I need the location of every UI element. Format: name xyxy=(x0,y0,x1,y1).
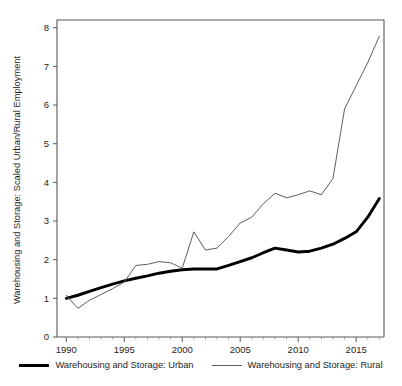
chart-figure: Warehousing and Storage: Scaled Urban/Ru… xyxy=(0,0,402,386)
y-axis-label-text: Warehousing and Storage: Scaled Urban/Ru… xyxy=(12,55,22,304)
plot-border xyxy=(57,20,384,337)
x-tick-label: 1995 xyxy=(114,344,135,355)
x-tick-label: 2000 xyxy=(172,344,193,355)
series-line-urban xyxy=(66,199,379,299)
legend-swatch-rural-icon xyxy=(212,365,242,366)
y-tick-label: 7 xyxy=(44,61,49,72)
x-tick-label: 2015 xyxy=(346,344,367,355)
y-tick-label: 1 xyxy=(44,293,49,304)
plot-frame xyxy=(57,20,384,337)
x-tick-label: 2010 xyxy=(288,344,309,355)
y-tick-label: 5 xyxy=(44,138,49,149)
y-axis-ticks: 012345678 xyxy=(44,22,57,342)
y-tick-label: 6 xyxy=(44,99,49,110)
x-tick-label: 1990 xyxy=(56,344,77,355)
y-tick-label: 8 xyxy=(44,22,49,33)
data-series-layer xyxy=(66,36,379,308)
legend-item-urban[interactable]: Warehousing and Storage: Urban xyxy=(19,360,193,370)
y-tick-label: 2 xyxy=(44,254,49,265)
legend-label-rural: Warehousing and Storage: Rural xyxy=(248,360,383,370)
y-axis-title: Warehousing and Storage: Scaled Urban/Ru… xyxy=(12,55,22,304)
line-chart-canvas: Warehousing and Storage: Scaled Urban/Ru… xyxy=(0,0,402,386)
legend-label-urban: Warehousing and Storage: Urban xyxy=(55,360,193,370)
x-tick-label: 2005 xyxy=(230,344,251,355)
x-axis-ticks: 199019952000200520102015 xyxy=(56,337,380,355)
legend-item-rural[interactable]: Warehousing and Storage: Rural xyxy=(212,360,383,370)
y-tick-label: 0 xyxy=(44,331,49,342)
y-tick-label: 3 xyxy=(44,215,49,226)
chart-legend: Warehousing and Storage: Urban Warehousi… xyxy=(0,360,402,370)
legend-swatch-urban-icon xyxy=(19,364,49,367)
y-tick-label: 4 xyxy=(44,177,49,188)
